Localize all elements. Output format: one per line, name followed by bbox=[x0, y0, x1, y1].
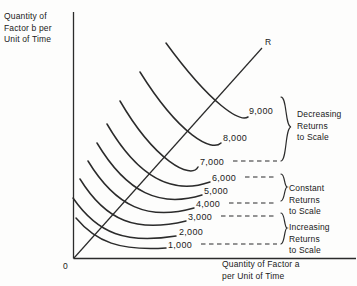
isoquant-1000 bbox=[76, 218, 166, 249]
isoquant-returns-to-scale-figure: Quantity of Factor b per Unit of Time Qu… bbox=[0, 0, 357, 286]
isoquant-curves bbox=[73, 43, 248, 249]
isoquant-4000 bbox=[88, 161, 194, 213]
isoquant-2000 bbox=[73, 198, 176, 239]
decreasing-returns-label: Decreasing Returns to Scale bbox=[297, 109, 342, 144]
isoquant-label-4000: 4,000 bbox=[196, 199, 220, 209]
isoquant-label-8000: 8,000 bbox=[223, 133, 247, 143]
increasing-returns-label: Increasing Returns to Scale bbox=[289, 222, 357, 257]
brace-decreasing bbox=[281, 97, 291, 161]
isoquant-7000 bbox=[120, 101, 198, 171]
brace-constant bbox=[281, 174, 287, 201]
y-axis-label: Quantity of Factor b per Unit of Time bbox=[4, 11, 52, 46]
constant-returns-label: Constant Returns to Scale bbox=[289, 183, 357, 218]
isoquant-label-5000: 5,000 bbox=[204, 186, 228, 196]
isoquant-5000 bbox=[97, 143, 202, 199]
brace-increasing bbox=[281, 213, 287, 244]
isoquant-9000 bbox=[166, 43, 248, 118]
isoquant-label-9000: 9,000 bbox=[249, 106, 273, 116]
isoquant-label-2000: 2,000 bbox=[179, 227, 203, 237]
x-axis-label: Quantity of Factor a per Unit of Time bbox=[222, 259, 300, 282]
origin-label: 0 bbox=[63, 261, 68, 271]
isoquant-label-1000: 1,000 bbox=[168, 240, 192, 250]
expansion-path-label: R bbox=[265, 37, 271, 47]
isoquant-label-6000: 6,000 bbox=[212, 173, 236, 183]
isoquant-label-7000: 7,000 bbox=[200, 157, 224, 167]
isoquant-8000 bbox=[140, 72, 221, 145]
isoquant-label-3000: 3,000 bbox=[188, 212, 212, 222]
